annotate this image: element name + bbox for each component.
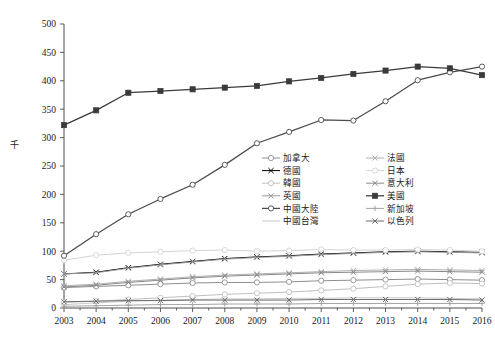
data-point-marker [254,280,259,285]
x-tick-label: 2016 [473,316,492,326]
data-point-marker [286,248,291,253]
legend-label: 韓國 [283,178,301,188]
data-point-marker [126,212,131,217]
data-point-marker [268,181,273,186]
x-tick-label: 2004 [87,316,106,326]
legend-label: 法國 [387,152,405,163]
data-point-marker [126,250,131,255]
x-tick-label: 2011 [312,316,331,326]
data-point-marker [190,280,195,285]
data-point-marker [383,99,388,104]
y-tick-label: 100 [42,247,57,257]
data-point-marker [222,280,227,285]
data-point-marker [61,253,66,258]
y-tick-label: 450 [42,48,57,58]
data-point-marker [126,90,131,95]
data-point-marker [254,291,259,296]
x-tick-label: 2006 [151,316,170,326]
data-point-marker [286,289,291,294]
y-tick-label: 0 [51,303,56,313]
chart-canvas: 050100150200250300350400450500千200320042… [0,0,495,340]
data-point-marker [222,247,227,252]
data-point-marker [158,249,163,254]
series-line [64,67,482,126]
line-chart-figure: 050100150200250300350400450500千200320042… [0,0,495,340]
data-point-marker [351,278,356,283]
data-point-marker [190,248,195,253]
data-point-marker [222,162,227,167]
data-point-marker [351,247,356,252]
data-point-marker [351,286,356,291]
data-point-marker [319,278,324,283]
x-tick-label: 2007 [183,316,202,326]
data-point-marker [447,280,452,285]
data-point-marker [351,118,356,123]
y-tick-label: 400 [42,76,57,86]
y-tick-label: 200 [42,190,57,200]
legend-label: 意大利 [387,177,414,188]
data-point-marker [383,277,388,282]
data-point-marker [94,232,99,237]
data-point-marker [383,284,388,289]
data-point-marker [158,88,163,93]
data-point-marker [479,281,484,286]
data-point-marker [268,155,273,160]
x-tick-label: 2005 [119,316,138,326]
data-point-marker [479,64,484,69]
data-point-marker [286,79,291,84]
data-point-marker [158,196,163,201]
data-point-marker [447,66,452,71]
legend-label: 英國 [283,190,301,201]
legend-label: 日本 [387,165,405,176]
data-point-marker [286,129,291,134]
data-point-marker [190,87,195,92]
legend-label: 美國 [387,190,405,201]
y-tick-label: 250 [42,161,57,171]
data-point-marker [383,247,388,252]
data-point-marker [319,247,324,252]
legend-label: 中國台灣 [283,215,319,226]
data-point-marker [190,182,195,187]
data-point-marker [254,249,259,254]
x-tick-label: 2015 [440,316,459,326]
legend-label: 德國 [283,165,301,176]
data-point-marker [372,193,377,198]
y-tick-label: 50 [47,275,57,285]
x-tick-label: 2010 [280,316,299,326]
legend-label: 以色列 [387,215,414,226]
data-point-marker [254,141,259,146]
data-point-marker [254,83,259,88]
x-tick-label: 2013 [376,316,395,326]
legend-label: 加拿大 [283,152,310,163]
y-tick-label: 150 [42,218,57,228]
data-point-marker [319,75,324,80]
x-tick-label: 2008 [215,316,234,326]
data-point-marker [383,68,388,73]
y-tick-label: 500 [42,19,57,29]
series-加拿大 [61,276,484,290]
chart-legend: 加拿大德國韓國英國中國大陸中國台灣法國日本意大利美國新加坡以色列 [258,149,472,233]
data-point-marker [415,247,420,252]
data-point-marker [222,85,227,90]
y-tick-label: 300 [42,133,57,143]
data-point-marker [415,282,420,287]
data-point-marker [479,73,484,78]
x-tick-label: 2009 [247,316,266,326]
data-point-marker [286,279,291,284]
data-point-marker [415,276,420,281]
data-point-marker [415,64,420,69]
data-point-marker [319,117,324,122]
data-point-marker [222,292,227,297]
data-point-marker [479,249,484,254]
data-point-marker [415,78,420,83]
series-美國 [61,64,484,128]
series-日本 [61,247,484,263]
y-tick-label: 350 [42,105,57,115]
data-point-marker [268,206,273,211]
x-tick-label: 2014 [408,316,427,326]
data-point-marker [319,288,324,293]
data-point-marker [351,71,356,76]
data-point-marker [94,253,99,258]
data-point-marker [94,108,99,113]
y-axis-title: 千 [10,140,19,150]
